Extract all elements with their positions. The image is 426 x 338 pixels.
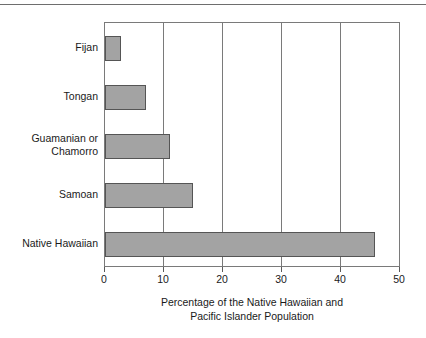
xtick-label-0: 0 [84, 273, 124, 285]
x-axis-title-line1: Percentage of the Native Hawaiian and [104, 296, 400, 310]
ylabel-guamanian-or-chamorro: Guamanian or Chamorro [0, 132, 98, 157]
bar-guamanian-or-chamorro[interactable] [105, 134, 170, 159]
bar-fijan[interactable] [105, 36, 121, 61]
bar-native-hawaiian[interactable] [105, 232, 375, 257]
plot-area [104, 22, 400, 267]
ylabel-native-hawaiian: Native Hawaiian [0, 237, 98, 250]
ylabel-guamanian-line2: Chamorro [0, 145, 98, 158]
ylabel-samoan-line1: Samoan [59, 188, 98, 200]
x-axis-title: Percentage of the Native Hawaiian and Pa… [104, 296, 400, 323]
gridline-30 [281, 23, 282, 266]
ylabel-guamanian-line1: Guamanian or [0, 132, 98, 145]
xtick-label-10: 10 [143, 273, 183, 285]
xtick-mark-40 [340, 267, 341, 272]
xtick-mark-30 [281, 267, 282, 272]
xtick-mark-0 [104, 267, 105, 272]
gridline-40 [340, 23, 341, 266]
ylabel-tongan-line1: Tongan [64, 90, 98, 102]
bar-samoan[interactable] [105, 183, 193, 208]
xtick-mark-20 [222, 267, 223, 272]
top-divider-rule [0, 4, 426, 5]
ylabel-native-hawaiian-line1: Native Hawaiian [22, 237, 98, 249]
xtick-mark-10 [163, 267, 164, 272]
xtick-label-40: 40 [320, 273, 360, 285]
xtick-mark-50 [399, 267, 400, 272]
xtick-label-20: 20 [202, 273, 242, 285]
xtick-label-50: 50 [379, 273, 419, 285]
ylabel-fijan: Fijan [0, 41, 98, 54]
bar-chart-figure: Fijan Tongan Guamanian or Chamorro Samoa… [0, 0, 426, 338]
xtick-label-30: 30 [261, 273, 301, 285]
bar-tongan[interactable] [105, 85, 146, 110]
ylabel-tongan: Tongan [0, 90, 98, 103]
x-axis-title-line2: Pacific Islander Population [104, 310, 400, 324]
gridline-20 [222, 23, 223, 266]
ylabel-samoan: Samoan [0, 188, 98, 201]
ylabel-fijan-line1: Fijan [75, 41, 98, 53]
